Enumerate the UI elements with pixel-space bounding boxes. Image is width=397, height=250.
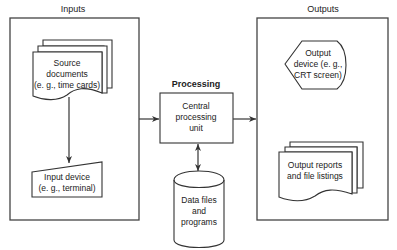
system-flowchart: Inputs Source documents (e. g., time car… xyxy=(0,0,397,250)
source-documents-label-2: documents xyxy=(46,69,88,79)
source-documents-label-1: Source xyxy=(54,58,81,68)
cpu-label-2: processing xyxy=(175,112,216,122)
processing-title: Processing xyxy=(172,79,221,89)
input-device-label-2: (e. g., terminal) xyxy=(38,183,95,193)
processing-section: Processing Central processing unit Data … xyxy=(139,79,256,248)
outputs-title: Outputs xyxy=(307,4,339,14)
data-files-label-3: programs xyxy=(181,217,217,227)
output-reports-label-2: and file listings xyxy=(287,171,343,181)
inputs-title: Inputs xyxy=(61,4,86,14)
input-device-label-1: Input device xyxy=(44,172,90,182)
cpu-label-3: unit xyxy=(189,123,203,133)
output-device-label-2: device (e. g., xyxy=(294,59,343,69)
source-documents-label-3: (e. g., time cards) xyxy=(34,80,100,90)
data-files-label-2: and xyxy=(192,206,206,216)
data-files-label-1: Data files xyxy=(181,195,216,205)
data-files-node: Data files and programs xyxy=(174,171,224,248)
source-documents-node: Source documents (e. g., time cards) xyxy=(33,40,112,100)
inputs-section: Inputs Source documents (e. g., time car… xyxy=(10,4,139,220)
output-device-label-1: Output xyxy=(305,48,331,58)
output-device-label-3: CRT screen) xyxy=(294,70,342,80)
input-device-node: Input device (e. g., terminal) xyxy=(32,162,102,197)
output-device-node: Output device (e. g., CRT screen) xyxy=(285,41,346,89)
outputs-section: Outputs Output device (e. g., CRT screen… xyxy=(257,4,388,220)
output-reports-label-1: Output reports xyxy=(288,160,342,170)
cpu-node: Central processing unit xyxy=(160,93,233,143)
cpu-label-1: Central xyxy=(182,101,210,111)
output-reports-node: Output reports and file listings xyxy=(279,142,363,201)
